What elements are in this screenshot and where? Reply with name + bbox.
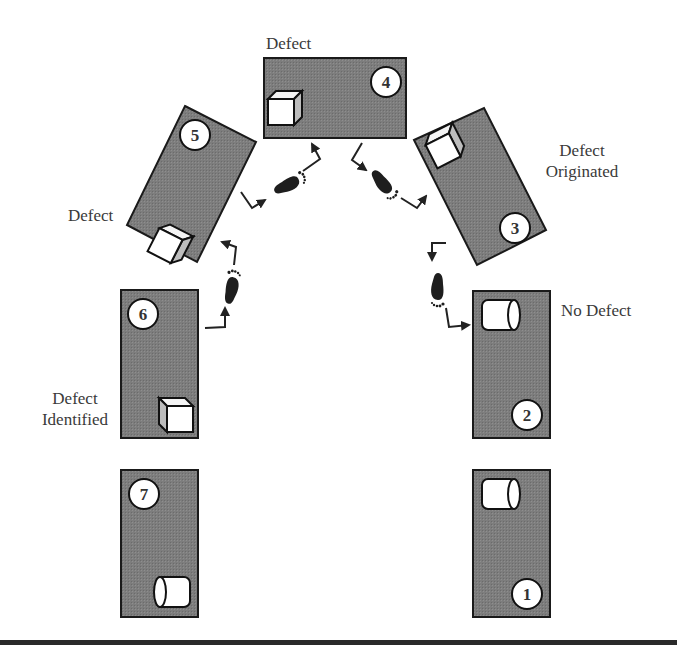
station-1: 1: [473, 470, 550, 617]
svg-text:7: 7: [140, 485, 149, 504]
cube-part-icon: [268, 91, 302, 125]
svg-text:1: 1: [523, 585, 532, 604]
label-line: Identified: [30, 409, 120, 430]
label-line: Defect: [532, 140, 632, 161]
label-line: Originated: [532, 161, 632, 182]
svg-text:3: 3: [511, 219, 520, 238]
cylinder-part-icon: [482, 479, 520, 509]
label-station-5: Defect: [68, 205, 113, 226]
label-station-3: Defect Originated: [532, 140, 632, 182]
cube-part-icon: [159, 398, 193, 432]
footprint-icon: [222, 269, 241, 305]
label-station-4: Defect: [266, 33, 311, 54]
svg-text:2: 2: [523, 406, 532, 425]
walk-path-4-to-5: [241, 144, 320, 208]
walk-path-2-to-3: [431, 243, 469, 327]
station-3: 3: [414, 108, 546, 265]
station-7: 7: [121, 470, 198, 617]
cylinder-part-icon: [154, 577, 190, 607]
svg-text:6: 6: [139, 305, 148, 324]
footprint-icon: [431, 273, 445, 307]
process-diagram: 4 5 3 6 2: [0, 0, 677, 657]
label-station-2: No Defect: [561, 300, 631, 321]
footprint-icon: [272, 170, 309, 198]
label-station-6: Defect Identified: [30, 388, 120, 430]
svg-text:5: 5: [191, 126, 200, 145]
station-5: 5: [127, 106, 256, 267]
station-2: 2: [473, 291, 550, 438]
station-4: 4: [264, 58, 406, 138]
cylinder-part-icon: [482, 300, 520, 330]
walk-path-3-to-4: [352, 143, 426, 208]
station-6: 6: [121, 290, 198, 438]
bottom-rule: [0, 640, 677, 645]
walk-path-6-to-5: [205, 242, 242, 328]
svg-text:4: 4: [382, 73, 391, 92]
footprint-icon: [368, 167, 401, 202]
label-line: Defect: [30, 388, 120, 409]
